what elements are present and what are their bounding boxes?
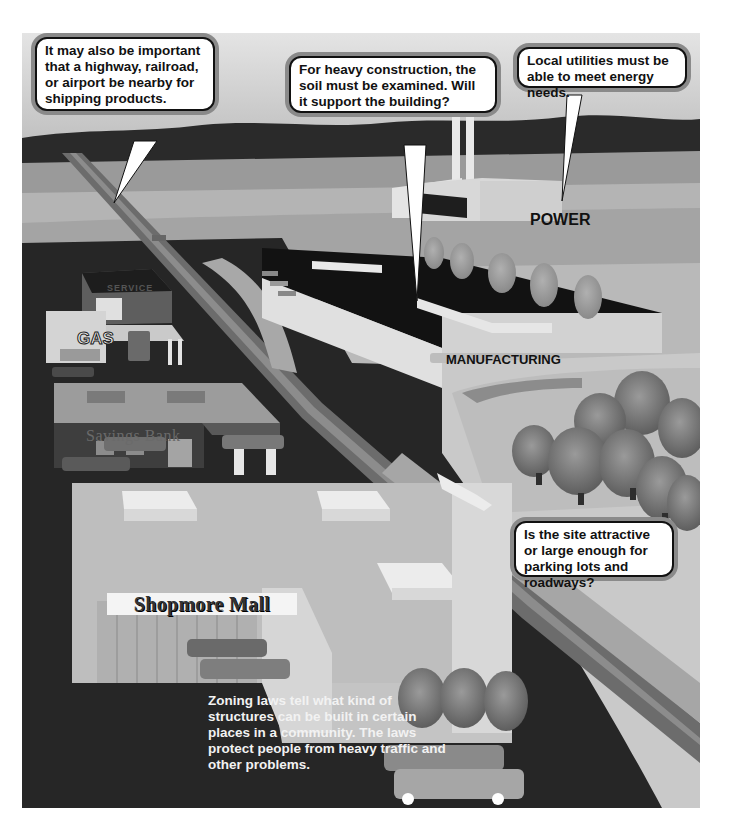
callout-site: Is the site attractive or large enough f… [514,521,674,577]
callout-utilities: Local utilities must be able to meet ene… [517,47,687,88]
power-plant-label: POWER [530,211,590,229]
zoning-illustration: It may also be important that a highway,… [22,33,700,808]
caption-term: Zoning laws [208,693,286,708]
callout-soil: For heavy construction, the soil must be… [289,56,497,113]
callout-transportation: It may also be important that a highway,… [35,37,215,111]
gas-station-label: GAS [77,329,114,349]
savings-bank-label: Savings Bank [86,427,180,445]
service-garage-label: SERVICE [107,283,153,293]
zoning-laws-caption: Zoning laws tell what kind of structures… [208,693,458,773]
manufacturing-label: MANUFACTURING [446,352,561,367]
shopmore-mall-sign: Shopmore Mall [107,593,297,615]
town-scene-graphic [22,33,700,808]
